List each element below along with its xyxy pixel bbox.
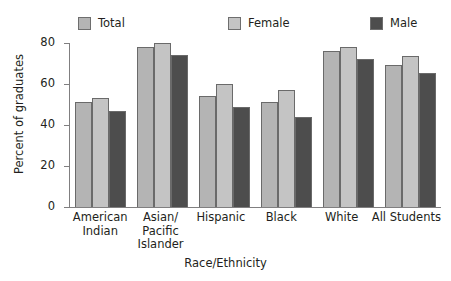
bar-group bbox=[70, 43, 132, 207]
bar-total bbox=[323, 51, 340, 207]
legend-swatch-female bbox=[228, 17, 241, 30]
x-axis-label-line: Black bbox=[251, 211, 311, 225]
x-axis-label: Asian/PacificIslander bbox=[130, 211, 190, 253]
y-tick-label-80: 80 bbox=[40, 37, 55, 49]
y-tick-label-0: 0 bbox=[48, 201, 55, 213]
y-tick-0: 0 bbox=[64, 207, 70, 208]
bar-chart: Total Female Male 020406080 AmericanIndi… bbox=[0, 0, 451, 281]
x-axis-label-line: Hispanic bbox=[191, 211, 251, 225]
legend-item-total: Total bbox=[78, 13, 125, 33]
bar-male bbox=[109, 111, 126, 207]
plot-area: 020406080 bbox=[69, 40, 441, 210]
x-axis-label-line: Islander bbox=[130, 238, 190, 252]
chart-legend: Total Female Male bbox=[78, 13, 438, 33]
bar-group bbox=[255, 43, 317, 207]
bar-total bbox=[199, 96, 216, 207]
legend-swatch-male bbox=[370, 17, 383, 30]
x-axis-label-line: Asian/ bbox=[130, 211, 190, 225]
x-axis-label-line: Indian bbox=[70, 225, 130, 239]
bar-group bbox=[317, 43, 379, 207]
x-axis-category-labels: AmericanIndianAsian/PacificIslanderHispa… bbox=[70, 211, 441, 253]
bar-female bbox=[278, 90, 295, 207]
bar-male bbox=[357, 59, 374, 207]
x-axis-label-line: All Students bbox=[372, 211, 441, 225]
legend-label-total: Total bbox=[98, 17, 125, 30]
legend-item-male: Male bbox=[370, 13, 417, 33]
bar-male bbox=[295, 117, 312, 207]
y-tick-label-20: 20 bbox=[40, 160, 55, 172]
bar-total bbox=[385, 65, 402, 207]
x-axis-label-line: White bbox=[311, 211, 371, 225]
bar-male bbox=[171, 55, 188, 207]
x-axis-label: Hispanic bbox=[191, 211, 251, 253]
bar-male bbox=[419, 73, 436, 207]
legend-swatch-total bbox=[78, 17, 91, 30]
bar-female bbox=[340, 47, 357, 207]
bar-total bbox=[261, 102, 278, 207]
legend-label-male: Male bbox=[390, 17, 417, 30]
bar-group bbox=[379, 43, 441, 207]
bar-group bbox=[132, 43, 194, 207]
x-axis-label-line: American bbox=[70, 211, 130, 225]
bar-total bbox=[137, 47, 154, 207]
x-axis-label: AmericanIndian bbox=[70, 211, 130, 253]
y-tick-label-60: 60 bbox=[40, 78, 55, 90]
legend-item-female: Female bbox=[228, 13, 290, 33]
x-axis-line bbox=[69, 207, 441, 208]
bar-female bbox=[402, 56, 419, 207]
bar-female bbox=[154, 43, 171, 207]
legend-label-female: Female bbox=[248, 17, 290, 30]
bar-female bbox=[216, 84, 233, 207]
x-axis-label: Black bbox=[251, 211, 311, 253]
x-axis-label: White bbox=[311, 211, 371, 253]
bar-groups bbox=[70, 43, 441, 207]
bar-total bbox=[75, 102, 92, 207]
bar-male bbox=[233, 107, 250, 207]
bar-group bbox=[194, 43, 256, 207]
y-axis-title: Percent of graduates bbox=[12, 54, 26, 174]
bar-female bbox=[92, 98, 109, 207]
x-axis-label: All Students bbox=[372, 211, 441, 253]
x-axis-label-line: Pacific bbox=[130, 225, 190, 239]
y-tick-label-40: 40 bbox=[40, 119, 55, 131]
x-axis-title: Race/Ethnicity bbox=[0, 256, 451, 270]
